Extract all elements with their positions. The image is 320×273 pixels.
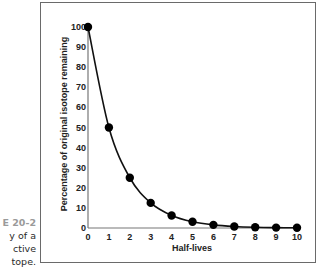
x-axis: 012345678910 <box>85 228 302 242</box>
decay-curve <box>88 27 297 228</box>
decay-chart: 0102030405060708090100 012345678910 Half… <box>0 0 320 273</box>
y-tick-label: 100 <box>71 22 86 32</box>
y-tick-label: 70 <box>76 82 86 92</box>
data-point-marker <box>209 221 217 229</box>
x-tick-label: 9 <box>274 232 279 242</box>
x-tick-label: 7 <box>232 232 237 242</box>
y-tick-label: 80 <box>76 62 86 72</box>
data-point-marker <box>293 224 301 232</box>
data-point-marker <box>84 23 92 31</box>
y-axis-title: Percentage of original isotope remaining <box>59 37 69 212</box>
x-tick-label: 10 <box>292 232 302 242</box>
y-tick-label: 10 <box>76 203 86 213</box>
x-tick-label: 6 <box>211 232 216 242</box>
y-tick-label: 90 <box>76 42 86 52</box>
y-tick-label: 40 <box>76 143 86 153</box>
data-point-marker <box>105 123 113 131</box>
x-tick-label: 8 <box>253 232 258 242</box>
x-tick-label: 3 <box>148 232 153 242</box>
x-tick-label: 4 <box>169 232 174 242</box>
data-point-marker <box>230 222 238 230</box>
y-tick-label: 60 <box>76 102 86 112</box>
data-point-marker <box>272 223 280 231</box>
data-point-marker <box>188 218 196 226</box>
y-tick-label: 50 <box>76 123 86 133</box>
x-tick-label: 1 <box>106 232 111 242</box>
y-axis: 0102030405060708090100 <box>71 22 88 233</box>
x-tick-label: 2 <box>127 232 132 242</box>
data-point-marker <box>251 223 259 231</box>
data-point-marker <box>126 174 134 182</box>
x-tick-label: 5 <box>190 232 195 242</box>
x-tick-label: 0 <box>85 232 90 242</box>
data-point-marker <box>167 211 175 219</box>
data-markers <box>84 23 301 232</box>
data-point-marker <box>147 199 155 207</box>
y-tick-label: 20 <box>76 183 86 193</box>
y-tick-label: 30 <box>76 163 86 173</box>
x-axis-title: Half-lives <box>172 243 212 253</box>
